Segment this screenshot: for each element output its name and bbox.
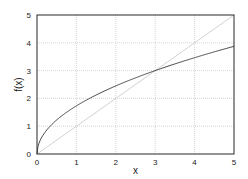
chart: 012345 012345 x f(x) [0,0,248,179]
y-tick-labels: 012345 [27,11,32,159]
series-lines [37,15,234,154]
curve-fx [37,46,234,154]
x-tick-label: 0 [35,158,40,167]
x-tick-label: 2 [114,158,119,167]
y-tick-label: 5 [27,11,32,20]
reference-line-y-equals-x [37,15,234,154]
x-tick-label: 3 [153,158,158,167]
y-tick-label: 2 [27,94,32,103]
x-axis-label: x [133,165,138,176]
x-tick-label: 4 [192,158,197,167]
y-tick-label: 4 [27,39,32,48]
x-tick-label: 1 [74,158,79,167]
y-tick-label: 1 [27,122,32,131]
y-tick-label: 0 [27,150,32,159]
y-tick-label: 3 [27,67,32,76]
y-axis-label: f(x) [13,77,24,91]
x-tick-label: 5 [232,158,237,167]
